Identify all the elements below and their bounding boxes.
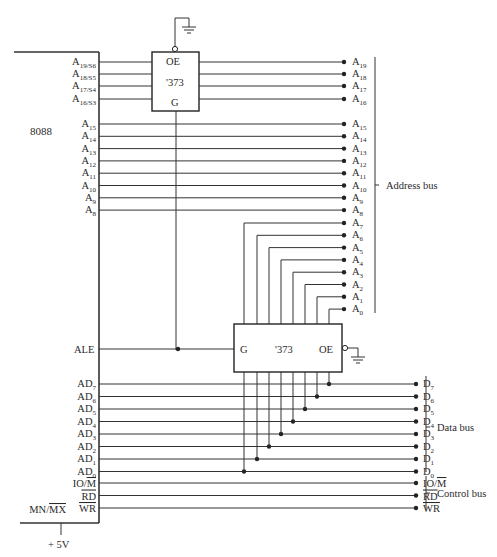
cpu-pin-A17/S4: A17/S4 [72, 80, 96, 94]
cpu-pin-rd: RD [81, 491, 96, 502]
cpu-name: 8088 [30, 125, 53, 137]
cpu-pin-wr: WR [79, 503, 96, 514]
cpu-pin-io_m: IO/M [73, 478, 97, 489]
addr-out-0: A0 [352, 303, 364, 317]
address-bus-brace [375, 57, 379, 313]
addr-out-8: A8 [352, 204, 364, 218]
address-bus-label: Address bus [386, 180, 438, 191]
cpu-pin-A8: A8 [85, 204, 97, 218]
supply-label: + 5V [48, 539, 70, 550]
cpu-pin-mn-mx: MN/MX [29, 504, 66, 515]
addr-out-16: A16 [352, 93, 367, 107]
latch-bottom-g: G [240, 344, 248, 355]
latch-top [152, 18, 199, 350]
latch-bottom-oe: OE [319, 344, 333, 355]
ctrl-out-rd: RD [423, 491, 438, 502]
latch-top-oe: OE [166, 56, 180, 67]
addr-out-17: A17 [352, 80, 367, 94]
latch-top-g: G [171, 97, 179, 108]
wires [99, 60, 418, 510]
cpu-pin-A16/S3: A16/S3 [72, 93, 96, 107]
control-bus-label: Control bus [437, 488, 486, 499]
circuit-diagram: 8088 + 5V OE '373 G G '373 OE ALE A19/S6… [0, 0, 497, 557]
cpu-pin-ale: ALE [74, 344, 94, 355]
latch-bottom-part: '373 [275, 344, 293, 355]
data-bus-label: Data bus [437, 422, 474, 433]
latch-top-part: '373 [166, 77, 184, 88]
